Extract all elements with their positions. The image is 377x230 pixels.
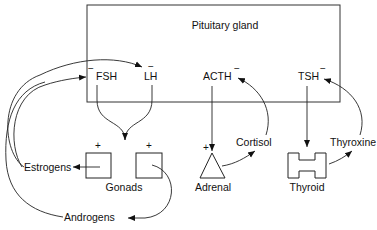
gonad-left-plus-sign: + <box>95 140 101 151</box>
lh-minus-sign: − <box>148 61 154 72</box>
gonad-right-plus-sign: + <box>146 140 152 151</box>
estrogens-label: Estrogens <box>24 161 71 173</box>
gonad-right-box <box>136 153 162 178</box>
tsh-label: TSH <box>298 70 319 82</box>
thyroxine-label: Thyroxine <box>330 136 376 148</box>
acth-label: ACTH <box>203 70 232 82</box>
estrogens-to-fsh-feedback <box>14 77 86 167</box>
fsh-to-gonads-line <box>97 85 125 140</box>
adrenal-plus-sign: + <box>203 142 209 153</box>
gonad-left-box <box>86 153 111 178</box>
estrogens-to-lh-feedback <box>8 60 142 167</box>
pituitary-gland-label: Pituitary gland <box>192 19 259 31</box>
cortisol-label: Cortisol <box>236 136 272 148</box>
pituitary-feedback-diagram: Pituitary gland FSH − LH − ACTH − TSH − … <box>0 0 377 230</box>
tsh-minus-sign: − <box>320 63 326 74</box>
thyroxine-to-tsh-feedback <box>324 79 362 135</box>
gonads-label: Gonads <box>106 181 143 193</box>
thyroid-h-shape <box>288 153 326 178</box>
lh-to-gonads-line <box>125 85 152 140</box>
cortisol-to-acth-feedback <box>238 78 268 135</box>
adrenal-to-cortisol-arrow <box>222 151 255 166</box>
androgens-label: Androgens <box>64 211 115 223</box>
fsh-minus-sign: − <box>88 63 94 74</box>
androgens-to-fsh-feedback <box>6 82 63 217</box>
fsh-label: FSH <box>96 70 117 82</box>
acth-minus-sign: − <box>234 63 240 74</box>
adrenal-triangle <box>200 153 225 178</box>
adrenal-label: Adrenal <box>195 181 231 193</box>
thyroid-to-thyroxine-arrow <box>329 151 352 164</box>
thyroid-label: Thyroid <box>289 181 324 193</box>
